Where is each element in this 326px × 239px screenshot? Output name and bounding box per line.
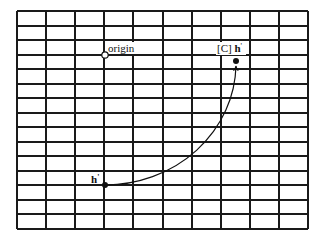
h-prime-label-group: h'	[91, 173, 99, 185]
grid	[17, 11, 308, 229]
h-prime-label: h'	[91, 173, 99, 185]
c-h-prime-label-group: [C] h'	[216, 42, 246, 55]
origin-label: origin	[108, 42, 135, 54]
c-h-prime-point	[233, 58, 239, 64]
diagram-canvas: origin h' [C] h'	[0, 0, 326, 239]
c-h-prime-label: [C] h'	[217, 42, 243, 54]
origin-point	[102, 52, 108, 58]
origin-label-group: origin	[107, 42, 135, 54]
h-prime-point	[102, 182, 108, 188]
